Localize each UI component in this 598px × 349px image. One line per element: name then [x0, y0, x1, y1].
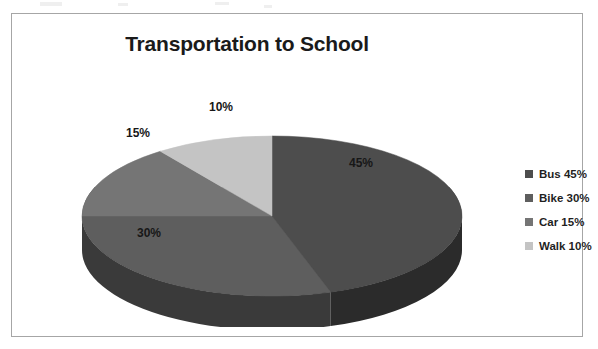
legend-item-bike[interactable]: Bike 30% [525, 186, 598, 210]
slice-label-car: 15% [126, 126, 150, 140]
chart-legend: Bus 45% Bike 30% Car 15% Walk 10% [525, 162, 598, 258]
plot-area: 45% 30% 15% 10% [12, 54, 492, 334]
legend-label: Bike 30% [539, 192, 590, 204]
legend-label: Car 15% [539, 216, 584, 228]
legend-swatch-icon [525, 242, 533, 250]
scan-artifact [215, 2, 229, 5]
legend-item-bus[interactable]: Bus 45% [525, 162, 598, 186]
scan-artifact [264, 5, 272, 8]
legend-item-walk[interactable]: Walk 10% [525, 234, 598, 258]
slice-label-bike: 30% [137, 226, 161, 240]
scan-artifact [118, 3, 128, 6]
legend-swatch-icon [525, 194, 533, 202]
legend-label: Walk 10% [539, 240, 592, 252]
legend-item-car[interactable]: Car 15% [525, 210, 598, 234]
legend-swatch-icon [525, 218, 533, 226]
pie-top-face [82, 136, 462, 296]
legend-label: Bus 45% [539, 168, 587, 180]
slice-label-bus: 45% [349, 156, 373, 170]
pie-chart-3d: 45% 30% 15% 10% [77, 84, 467, 314]
chart-container: Transportation to School [11, 13, 583, 337]
legend-swatch-icon [525, 170, 533, 178]
scan-artifact [40, 2, 62, 6]
slice-label-walk: 10% [209, 100, 233, 114]
chart-title: Transportation to School [12, 32, 482, 56]
pie-svg [77, 84, 467, 314]
